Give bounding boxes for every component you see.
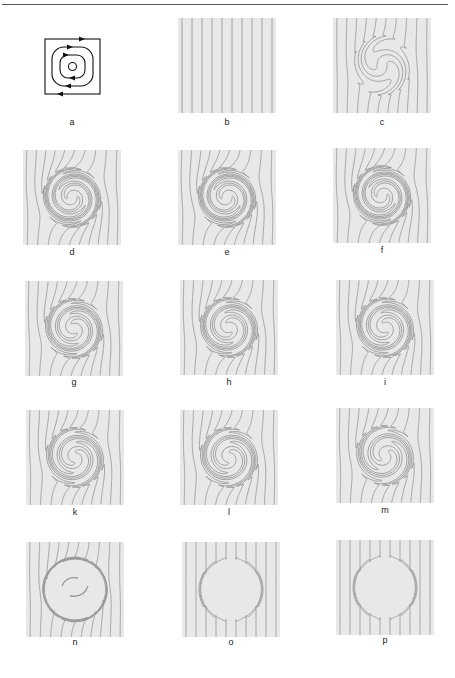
tracer-streamline-plot xyxy=(180,410,278,505)
tracer-streamline-plot xyxy=(336,280,434,375)
panel-label-d: d xyxy=(23,247,121,257)
panel-k xyxy=(26,410,124,505)
panel-g xyxy=(25,281,123,376)
tracer-streamline-plot xyxy=(26,410,124,505)
panel-label-a: a xyxy=(23,117,121,127)
tracer-streamline-plot xyxy=(178,18,276,113)
flow-arrow-icon xyxy=(63,53,69,58)
panel-n xyxy=(26,542,124,637)
panel-b xyxy=(178,18,276,113)
panel-a xyxy=(40,34,138,129)
panel-label-b: b xyxy=(178,117,276,127)
panel-p xyxy=(336,540,434,635)
panel-label-k: k xyxy=(26,507,124,517)
panel-l xyxy=(180,410,278,505)
panel-o xyxy=(182,542,280,637)
panel-label-e: e xyxy=(178,247,276,257)
vortex-schematic-diagram xyxy=(40,34,138,129)
panel-f xyxy=(333,148,431,243)
tracer-streamline-plot xyxy=(333,148,431,243)
panel-label-i: i xyxy=(336,377,434,387)
flow-arrow-icon xyxy=(57,92,63,97)
tracer-streamline-plot xyxy=(26,542,124,637)
panel-h xyxy=(180,280,278,375)
panel-m xyxy=(336,408,434,503)
tracer-streamline-plot xyxy=(178,150,276,245)
flow-arrow-icon xyxy=(65,84,71,89)
flow-arrow-icon xyxy=(67,45,73,50)
flow-arrow-icon xyxy=(79,37,85,42)
tracer-streamline-plot xyxy=(336,408,434,503)
panel-label-l: l xyxy=(180,507,278,517)
panel-i xyxy=(336,280,434,375)
panel-label-p: p xyxy=(336,635,434,645)
tracer-streamline-plot xyxy=(336,540,434,635)
panel-e xyxy=(178,150,276,245)
tracer-line xyxy=(427,18,428,113)
panel-label-n: n xyxy=(26,637,124,647)
panel-label-g: g xyxy=(25,377,123,387)
flow-arrow-icon xyxy=(69,76,75,81)
panel-c xyxy=(333,18,431,113)
panel-d xyxy=(23,150,121,245)
tracer-streamline-plot xyxy=(182,542,280,637)
panel-label-h: h xyxy=(180,377,278,387)
panel-label-o: o xyxy=(182,637,280,647)
panel-label-m: m xyxy=(336,505,434,515)
panel-label-c: c xyxy=(333,117,431,127)
tracer-line xyxy=(337,18,338,113)
tracer-streamline-plot xyxy=(180,280,278,375)
panel-label-f: f xyxy=(333,245,431,255)
tracer-streamline-plot xyxy=(333,18,431,113)
tracer-streamline-plot xyxy=(23,150,121,245)
top-rule xyxy=(2,4,448,5)
tracer-streamline-plot xyxy=(25,281,123,376)
